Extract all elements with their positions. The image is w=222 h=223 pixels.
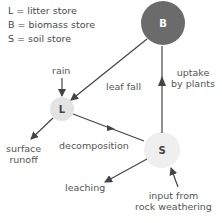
surface-runoff-label: surface runoff: [6, 143, 41, 165]
leaching-arrow: [105, 159, 147, 182]
leaf-fall-label: leaf fall: [106, 81, 141, 92]
litter-label: L: [59, 104, 66, 115]
soil-label: S: [158, 145, 165, 156]
uptake-label: uptake by plants: [171, 67, 215, 89]
rain-label: rain: [52, 65, 70, 76]
weathering-label: input from rock weathering: [135, 190, 212, 212]
biomass-label: B: [159, 18, 167, 29]
decomposition-label: decomposition: [59, 140, 129, 151]
leaching-label: leaching: [65, 182, 105, 193]
weathering-arrow: [171, 168, 178, 187]
surface-runoff-arrow: [31, 118, 53, 139]
uptake-arrowhead-icon: [158, 76, 166, 86]
